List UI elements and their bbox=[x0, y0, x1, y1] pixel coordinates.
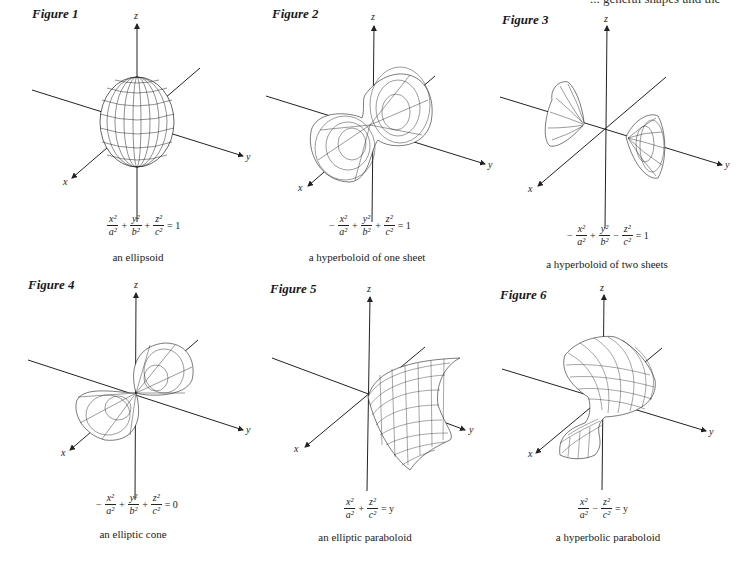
equation: − x²a² + y²b² + z²c² = 0 bbox=[95, 493, 179, 516]
figure-caption: a hyperbolic paraboloid bbox=[556, 531, 660, 543]
figure-2: Figure 2 z y x − x²a² + y²b² + z²c² = 1 … bbox=[250, 0, 500, 270]
z-axis-label: z bbox=[599, 282, 604, 293]
figure-caption: an ellipsoid bbox=[112, 251, 163, 263]
equation: − x²a² + y²b² − z²c² = 1 bbox=[566, 224, 650, 247]
figure-4: Figure 4 z y x − x²a² + y²b² + z²c² = 0 … bbox=[0, 275, 250, 561]
figure-1: Figure 1 z y x x²a² + y²b² + z²c² = 1 an… bbox=[0, 0, 250, 270]
x-axis-label: x bbox=[527, 448, 533, 459]
figure-caption: a hyperboloid of two sheets bbox=[546, 258, 668, 270]
figure-caption: an elliptic paraboloid bbox=[318, 531, 411, 543]
y-axis-label: y bbox=[724, 159, 730, 170]
x-axis-label: x bbox=[62, 176, 68, 187]
figure-caption: an elliptic cone bbox=[99, 528, 166, 540]
x-axis-label: x bbox=[293, 443, 299, 454]
y-axis-label: y bbox=[708, 426, 714, 437]
equation: x²a² + y²b² + z²c² = 1 bbox=[107, 214, 181, 237]
x-axis-label: x bbox=[527, 183, 533, 194]
figure-3: Figure 3 z y x − x²a² + y²b² − z²c² = 1 … bbox=[490, 0, 743, 270]
z-axis-label: z bbox=[133, 279, 138, 290]
x-axis-label: x bbox=[297, 182, 303, 193]
figure-5: Figure 5 z y x x²a² + z²c² = y an ellipt… bbox=[250, 275, 500, 561]
elliptic-cone-plot: z y x bbox=[0, 275, 250, 561]
equation: x²a² + z²c² = y bbox=[344, 497, 395, 520]
x-axis-label: x bbox=[60, 447, 66, 458]
figure-6: Figure 6 z y x x²a² − z²c² = y a hyperbo… bbox=[490, 275, 743, 561]
figure-caption: a hyperboloid of one sheet bbox=[309, 251, 426, 263]
z-axis-label: z bbox=[603, 13, 608, 24]
y-axis-label: y bbox=[468, 424, 474, 435]
z-axis-label: z bbox=[370, 11, 375, 22]
equation: − x²a² + y²b² + z²c² = 1 bbox=[328, 214, 412, 237]
z-axis-label: z bbox=[133, 10, 138, 21]
equation: x²a² − z²c² = y bbox=[578, 497, 629, 520]
z-axis-label: z bbox=[366, 283, 371, 294]
